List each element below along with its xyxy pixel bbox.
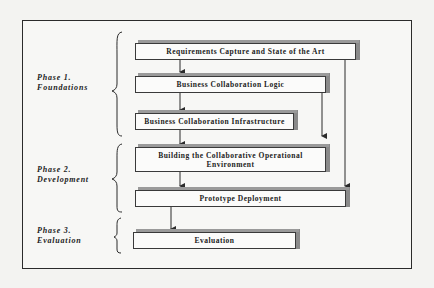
- phase3-title: Evaluation: [37, 236, 81, 246]
- box-requirements-capture: Requirements Capture and State of the Ar…: [135, 43, 356, 60]
- brace-phase2: [112, 144, 122, 212]
- brace-phase1: [112, 32, 122, 136]
- box-label: Prototype Deployment: [199, 194, 281, 203]
- box-label: Requirements Capture and State of the Ar…: [166, 47, 325, 56]
- box-label: Evaluation: [194, 236, 234, 245]
- box-label: Business Collaboration Infrastructure: [144, 117, 284, 126]
- box-label-line1: Building the Collaborative Operational: [158, 151, 303, 160]
- phase3-number: Phase 3.: [37, 226, 81, 236]
- box-prototype-deployment: Prototype Deployment: [135, 190, 346, 207]
- box-building-operational-environment: Building the Collaborative Operational E…: [135, 147, 326, 172]
- box-evaluation: Evaluation: [133, 232, 296, 249]
- box-label: Business Collaboration Logic: [177, 80, 285, 89]
- brace-phase3: [114, 218, 121, 253]
- phase2-number: Phase 2.: [37, 165, 89, 175]
- phase1-title: Foundations: [37, 83, 88, 93]
- box-label-line2: Environment: [207, 160, 255, 169]
- phase1-number: Phase 1.: [37, 73, 88, 83]
- box-business-collaboration-logic: Business Collaboration Logic: [135, 76, 326, 93]
- phase-label-2: Phase 2. Development: [37, 165, 89, 185]
- phase2-title: Development: [37, 175, 89, 185]
- phase-label-1: Phase 1. Foundations: [37, 73, 88, 93]
- box-business-collaboration-infrastructure: Business Collaboration Infrastructure: [135, 113, 294, 130]
- phase-label-3: Phase 3. Evaluation: [37, 226, 81, 246]
